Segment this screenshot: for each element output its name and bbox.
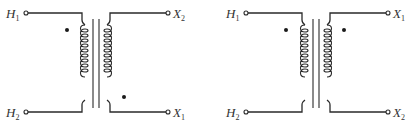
secondary-top-lead [327, 13, 386, 25]
polarity-dot-primary [65, 28, 69, 32]
label-h2: H2 [225, 105, 239, 122]
secondary-bottom-lead [327, 100, 386, 112]
secondary-winding [324, 25, 332, 77]
label-x2: X2 [172, 6, 185, 23]
terminal-h1 [244, 11, 248, 15]
secondary-winding [104, 25, 112, 77]
transformer-polarity-figure: H1 H2 X2 X1 H1 H2 X1 X2 [0, 0, 412, 126]
label-x1: X1 [392, 6, 405, 23]
polarity-dot-primary [284, 28, 288, 32]
transformer-diagram-2: H1 H2 X1 X2 [225, 6, 405, 122]
primary-bottom-lead [248, 100, 305, 112]
secondary-bottom-lead [107, 100, 166, 112]
terminal-h1 [24, 11, 28, 15]
label-h1: H1 [5, 6, 19, 23]
polarity-dot-secondary [342, 28, 346, 32]
transformer-diagram-1: H1 H2 X2 X1 [5, 6, 185, 122]
primary-winding [301, 25, 309, 77]
terminal-h2 [244, 110, 248, 114]
label-x2: X2 [392, 105, 405, 122]
secondary-top-lead [107, 13, 166, 25]
label-h1: H1 [225, 6, 239, 23]
terminal-x1 [166, 110, 170, 114]
polarity-dot-secondary [122, 95, 126, 99]
primary-top-lead [248, 13, 305, 25]
terminal-x2 [166, 11, 170, 15]
label-h2: H2 [5, 105, 19, 122]
terminal-x2 [386, 110, 390, 114]
primary-winding [81, 25, 89, 77]
terminal-h2 [24, 110, 28, 114]
label-x1: X1 [172, 105, 185, 122]
primary-bottom-lead [28, 100, 85, 112]
terminal-x1 [386, 11, 390, 15]
primary-top-lead [28, 13, 85, 25]
